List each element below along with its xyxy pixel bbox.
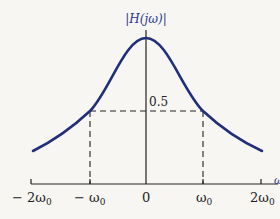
x-axis-symbol: ω	[274, 174, 280, 187]
x-tick-labels: − 2ω0 − ω0 0 ω0 2ω0	[12, 190, 275, 207]
tick-label-w0: ω0	[196, 190, 213, 207]
tick-label-2w0: 2ω0	[250, 190, 275, 207]
half-level-label: 0.5	[149, 95, 168, 109]
magnitude-curve	[33, 38, 262, 151]
frequency-response-plot: |H(jω)| 0.5 ω − 2ω0 − ω0 0 ω0 2ω0	[0, 0, 280, 219]
tick-label-zero: 0	[142, 190, 150, 205]
tick-label-negw0: − ω0	[74, 190, 106, 207]
tick-label-neg2w0: − 2ω0	[12, 190, 52, 207]
y-axis-title: |H(jω)|	[125, 12, 166, 26]
